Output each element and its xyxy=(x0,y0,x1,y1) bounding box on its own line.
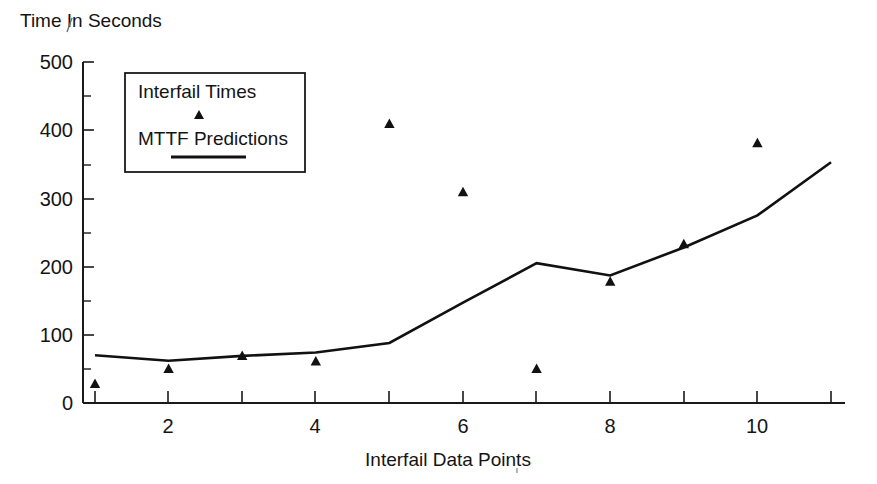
data-point-marker xyxy=(163,364,173,374)
scan-artifact-speck xyxy=(516,468,518,473)
data-point-marker xyxy=(752,138,762,148)
data-point-marker xyxy=(90,379,100,389)
x-axis-ticks xyxy=(95,391,831,403)
x-tick-label-2: 2 xyxy=(162,415,173,437)
y-axis-tick-labels: 0 100 200 300 400 500 xyxy=(40,51,73,414)
legend-triangle-marker-icon xyxy=(194,110,204,119)
y-axis-minor-ticks xyxy=(83,96,91,369)
data-point-marker xyxy=(679,239,689,249)
x-tick-label-6: 6 xyxy=(457,415,468,437)
legend-label-mttf-predictions: MTTF Predictions xyxy=(138,128,288,149)
x-axis-title: Interfail Data Points xyxy=(365,449,531,470)
x-axis-tick-labels: 2 4 6 8 10 xyxy=(162,415,768,437)
y-tick-label-400: 400 xyxy=(40,119,73,141)
data-point-marker xyxy=(384,119,394,129)
data-point-marker xyxy=(531,364,541,374)
series-markers-interfail-times xyxy=(90,119,763,388)
x-tick-label-8: 8 xyxy=(604,415,615,437)
x-tick-label-10: 10 xyxy=(746,415,768,437)
legend: Interfail Times MTTF Predictions xyxy=(125,73,305,172)
x-tick-label-4: 4 xyxy=(309,415,320,437)
chart-figure: Time In Seconds 0 100 200 xyxy=(0,0,877,484)
data-point-marker xyxy=(605,276,615,286)
y-tick-label-300: 300 xyxy=(40,188,73,210)
legend-label-interfail-times: Interfail Times xyxy=(138,81,256,102)
chart-canvas: Time In Seconds 0 100 200 xyxy=(0,0,877,484)
data-point-marker xyxy=(458,187,468,197)
y-tick-label-100: 100 xyxy=(40,324,73,346)
data-point-marker xyxy=(311,356,321,366)
y-tick-label-0: 0 xyxy=(62,392,73,414)
y-tick-label-500: 500 xyxy=(40,51,73,73)
y-tick-label-200: 200 xyxy=(40,256,73,278)
y-axis-title: Time In Seconds xyxy=(20,10,162,31)
